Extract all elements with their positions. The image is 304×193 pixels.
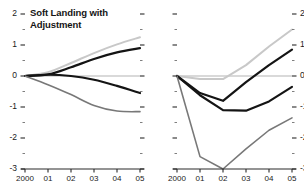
y-tick-label-right-0: 2 <box>300 8 304 18</box>
y-tick-label-right-3: -1 <box>300 101 304 111</box>
series-black-v-deep <box>177 76 292 111</box>
y-tick-label-left-3: -1 <box>1 101 17 111</box>
harder-landing-plot <box>152 0 304 193</box>
panel-title-soft-landing: Soft Landing with Adjustment <box>30 7 108 30</box>
y-tick-label-left-1: 1 <box>1 39 17 49</box>
series-black-v-shallow <box>177 50 292 101</box>
figure-container: Soft Landing with Adjustment Harder Land… <box>0 0 304 193</box>
y-tick-label-left-4: -2 <box>1 132 17 142</box>
chart-panel-soft-landing: Soft Landing with Adjustment <box>0 0 152 193</box>
y-tick-label-right-1: 1 <box>300 39 304 49</box>
y-tick-label-right-5: -3 <box>300 163 304 173</box>
series-light-gray-rising <box>177 30 292 80</box>
y-tick-label-right-4: -2 <box>300 132 304 142</box>
series-gray-falling <box>25 76 140 112</box>
x-tick-label-p1-5: 05 <box>277 174 304 183</box>
y-tick-label-right-2: 0 <box>300 70 304 80</box>
series-black-rising <box>25 48 140 76</box>
series-black-falling <box>25 75 140 93</box>
series-light-gray-rising <box>25 37 140 76</box>
y-tick-label-left-2: 0 <box>1 70 17 80</box>
y-tick-label-left-0: 2 <box>1 8 17 18</box>
chart-panel-harder-landing: Harder Landing <box>152 0 304 193</box>
y-tick-label-left-5: -3 <box>1 163 17 173</box>
x-tick-label-p0-5: 05 <box>125 174 155 183</box>
